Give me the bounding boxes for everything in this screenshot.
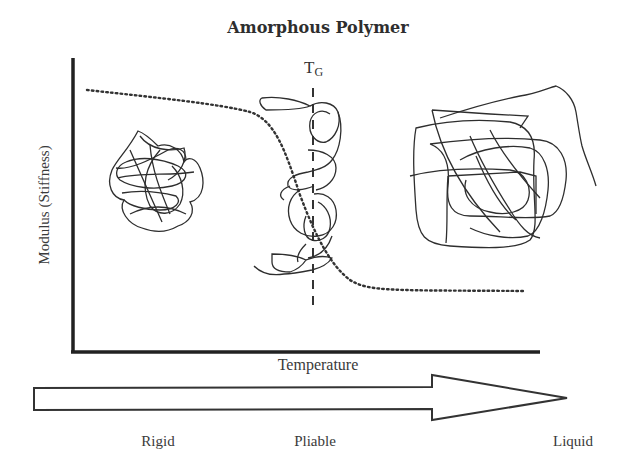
y-axis-label: Modulus (Stiffness) <box>36 145 53 264</box>
diagram-title: Amorphous Polymer <box>0 18 636 37</box>
tg-subscript: G <box>314 65 323 79</box>
loose-chain-coil <box>410 86 596 248</box>
stage-label-pliable: Pliable <box>294 433 336 450</box>
progression-arrow <box>34 375 567 420</box>
stage-label-liquid: Liquid <box>553 433 593 450</box>
tg-label: TG <box>304 58 323 80</box>
modulus-curve <box>87 90 526 291</box>
x-axis-label: Temperature <box>0 356 636 374</box>
tight-chain-coil <box>110 131 203 231</box>
tg-symbol: T <box>304 58 314 77</box>
stage-label-rigid: Rigid <box>141 433 174 450</box>
